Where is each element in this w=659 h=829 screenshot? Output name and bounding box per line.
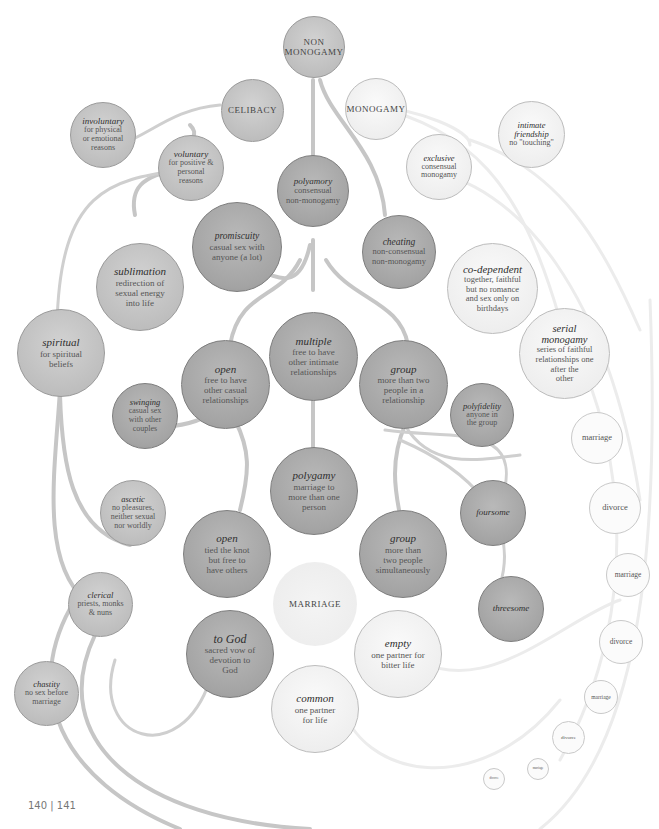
node-chastity: chastity no sex before marriage	[14, 661, 79, 726]
node-group-relationship: group more than two people in a relation…	[359, 340, 448, 429]
node-multiple-title: multiple	[295, 336, 331, 348]
node-polyamory-desc: consensual non-monogamy	[286, 186, 340, 205]
node-polygamy-desc: marriage to more than one person	[288, 482, 339, 512]
chain-node-label: marriage	[533, 767, 544, 770]
node-monogamy: MONOGAMY	[345, 78, 407, 140]
chain-node-marriage-2: marriage	[606, 553, 650, 597]
chain-node-label: marriage	[615, 571, 642, 579]
node-swinging-desc: casual sex with other couples	[129, 407, 162, 434]
node-sublimation-desc: redirection of sexual energy into life	[115, 278, 165, 308]
chain-node-label: divorce	[490, 777, 499, 780]
chain-node-marriage-3: marriage	[584, 680, 618, 714]
node-exclusive-desc: consensual monogamy	[421, 163, 457, 181]
node-polygamy-title: polygamy	[293, 470, 336, 482]
node-group-relationship-desc: more than two people in a relationship	[378, 375, 430, 405]
node-sublimation-title: sublimation	[114, 266, 166, 278]
node-empty: empty one partner for bitter life	[354, 610, 442, 698]
node-serial-monogamy-title: serial monogamy	[541, 323, 587, 345]
node-threesome-title: threesome	[493, 604, 530, 613]
node-marriage-hub: MARRIAGE	[273, 562, 357, 646]
node-threesome: threesome	[478, 576, 544, 642]
node-non-monogamy-label: NON MONOGAMY	[284, 37, 343, 58]
node-polyamory: polyamory consensual non-monogamy	[277, 155, 349, 227]
node-group-married-title: group	[390, 533, 416, 545]
node-empty-desc: one partner for bitter life	[371, 650, 424, 670]
chain-node-label: divorce	[561, 735, 576, 741]
node-serial-monogamy-desc: series of faithful relationships one aft…	[536, 345, 594, 383]
chain-node-label: divorce	[602, 503, 628, 513]
node-open-casual-desc: free to have other casual relationships	[203, 375, 249, 405]
node-cheating: cheating non-consensual non-monogamy	[362, 215, 436, 289]
chain-node-divorce-4: divorce	[483, 768, 505, 790]
node-spiritual: spiritual for spiritual beliefs	[17, 309, 105, 397]
node-monogamy-label: MONOGAMY	[346, 104, 405, 114]
node-promiscuity-title: promiscuity	[215, 232, 260, 242]
node-spiritual-desc: for spiritual beliefs	[40, 349, 82, 369]
node-ascetic: ascetic no pleasures, neither sexual nor…	[100, 480, 166, 546]
node-foursome: foursome	[460, 480, 526, 546]
node-to-god: to God sacred vow of devotion to God	[186, 610, 274, 698]
node-open-casual-title: open	[215, 364, 236, 376]
chain-node-marriage-4: marriage	[527, 758, 549, 780]
node-polygamy: polygamy marriage to more than one perso…	[270, 447, 358, 535]
node-group-married: group more than two people simultaneousl…	[359, 510, 447, 598]
node-voluntary-desc: for positive & personal reasons	[169, 159, 214, 186]
node-marriage-hub-label: MARRIAGE	[289, 599, 341, 609]
node-open-married: open tied the knot but free to have othe…	[183, 510, 271, 598]
node-serial-monogamy: serial monogamy series of faithful relat…	[519, 308, 610, 399]
node-open-married-desc: tied the knot but free to have others	[205, 545, 250, 575]
node-common-desc: one partner for life	[295, 705, 336, 725]
node-promiscuity: promiscuity casual sex with anyone (a lo…	[192, 202, 282, 292]
node-group-relationship-title: group	[391, 364, 417, 376]
node-to-god-title: to God	[214, 633, 247, 646]
node-involuntary-desc: for physical or emotional reasons	[83, 126, 124, 153]
chain-node-label: marriage	[582, 433, 612, 443]
node-intimate-friendship-desc: no "touching"	[509, 139, 554, 148]
node-involuntary: involuntary for physical or emotional re…	[70, 102, 136, 168]
node-co-dependent: co-dependent together, faithful but no r…	[447, 243, 538, 334]
node-intimate-friendship-title: intimate friendship	[514, 121, 548, 139]
node-celibacy-label: CELIBACY	[228, 105, 277, 115]
node-exclusive: exclusive consensual monogamy	[406, 134, 472, 200]
node-celibacy: CELIBACY	[221, 79, 284, 142]
node-voluntary: voluntary for positive & personal reason…	[158, 135, 224, 201]
node-swinging: swinging casual sex with other couples	[112, 383, 178, 449]
node-to-god-desc: sacred vow of devotion to God	[205, 645, 255, 675]
node-cheating-desc: non-consensual non-monogamy	[372, 247, 426, 266]
chain-node-divorce-1: divorce	[589, 482, 641, 534]
node-co-dependent-desc: together, faithful but no romance and se…	[464, 275, 521, 313]
chain-node-divorce-2: divorce	[599, 620, 643, 664]
node-multiple-desc: free to have other intimate relationship…	[288, 347, 338, 377]
chain-node-label: divorce	[610, 638, 633, 646]
node-spiritual-title: spiritual	[42, 337, 79, 349]
chain-node-divorce-3: divorce	[552, 721, 585, 754]
page-number: 140 | 141	[28, 800, 76, 811]
node-chastity-desc: no sex before marriage	[25, 689, 68, 707]
node-multiple: multiple free to have other intimate rel…	[269, 312, 358, 401]
node-sublimation: sublimation redirection of sexual energy…	[96, 243, 184, 331]
node-open-married-title: open	[216, 533, 237, 545]
node-polyfidelity: polyfidelity anyone in the group	[450, 383, 514, 447]
node-clerical: clerical priests, monks & nuns	[68, 572, 133, 637]
node-common-title: common	[296, 693, 333, 705]
node-polyfidelity-desc: anyone in the group	[466, 411, 497, 429]
node-open-casual: open free to have other casual relations…	[181, 340, 270, 429]
node-promiscuity-desc: casual sex with anyone (a lot)	[210, 242, 265, 262]
node-intimate-friendship: intimate friendship no "touching"	[498, 101, 565, 168]
node-foursome-title: foursome	[476, 508, 510, 517]
node-clerical-desc: priests, monks & nuns	[77, 600, 123, 618]
node-non-monogamy: NON MONOGAMY	[283, 16, 345, 78]
node-empty-title: empty	[385, 638, 411, 650]
node-group-married-desc: more than two people simultaneously	[376, 545, 431, 575]
node-ascetic-desc: no pleasures, neither sexual nor worldly	[111, 504, 156, 531]
chain-node-label: marriage	[591, 694, 611, 700]
node-common: common one partner for life	[271, 665, 359, 753]
chain-node-marriage-1: marriage	[571, 412, 623, 464]
